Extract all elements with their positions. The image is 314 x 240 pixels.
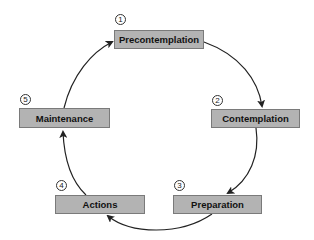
stage-precontemplation: Precontemplation [114,30,204,49]
stage-label: Actions [83,199,118,210]
stage-number-5: 5 [20,94,31,105]
stage-number-4: 4 [56,180,67,191]
arrow-preparation-to-actions [108,214,212,230]
stage-number-1: 1 [115,14,126,25]
stage-label: Precontemplation [119,34,199,45]
stage-number-3: 3 [174,180,185,191]
stage-actions: Actions [55,195,145,214]
stage-number-2: 2 [212,95,223,106]
stage-label: Maintenance [36,113,94,124]
stage-label: Preparation [191,199,244,210]
stages-of-change-diagram: 1 Precontemplation 2 Contemplation 3 Pre… [0,0,314,240]
stage-maintenance: Maintenance [19,108,110,128]
arrow-maintenance-to-precontemplation [64,42,112,108]
stage-contemplation: Contemplation [211,109,300,128]
arrow-contemplation-to-preparation [228,128,257,193]
stage-preparation: Preparation [173,195,262,214]
stage-label: Contemplation [222,113,289,124]
